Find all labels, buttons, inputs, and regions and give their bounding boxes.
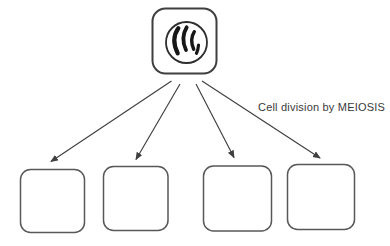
daughter-cell-box [21, 170, 85, 233]
division-arrow [196, 84, 234, 158]
meiosis-diagram: Cell division by MEIOSIS [0, 0, 390, 246]
division-arrows [51, 81, 320, 162]
division-arrow [136, 84, 180, 160]
nucleus-with-chromosomes-icon [166, 22, 207, 63]
daughter-cells [21, 165, 355, 233]
chromosome-stroke [174, 28, 178, 53]
caption: Cell division by MEIOSIS [258, 101, 385, 113]
daughter-cell-box [288, 165, 355, 230]
daughter-cell-box [204, 166, 272, 231]
chromosome-stroke [192, 32, 195, 50]
chromosome-stroke [197, 45, 199, 53]
division-arrow [202, 81, 320, 158]
daughter-cell-box [104, 167, 169, 231]
chromosome-stroke [183, 27, 186, 50]
division-arrow [51, 81, 172, 162]
parent-cell [153, 9, 217, 74]
diagram-svg: Cell division by MEIOSIS [0, 0, 390, 246]
